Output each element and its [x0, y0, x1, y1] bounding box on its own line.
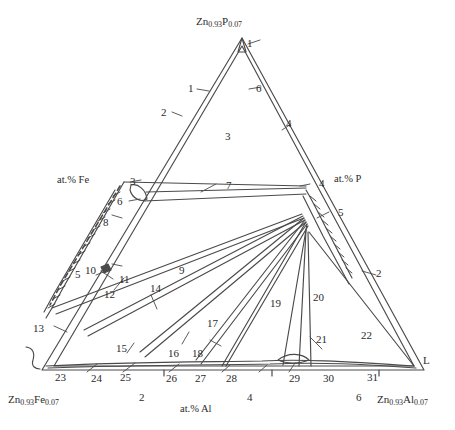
corner-label-bottom-right: Zn0.93Al0.07 [377, 394, 428, 407]
field-label-18: 18 [192, 348, 203, 359]
field-label-3-center: 3 [225, 131, 231, 142]
left-corner-bracket [26, 347, 40, 369]
phase-diagram-canvas [0, 0, 455, 430]
axis-label-al: at.% Al [180, 404, 212, 415]
axis-label-p: at.% P [334, 174, 361, 185]
boundary-21-22 [308, 232, 311, 366]
field-label-3-left: 3 [130, 176, 136, 187]
field-label-17: 17 [207, 318, 218, 329]
bottom-point-label-24: 24 [91, 373, 102, 384]
field-label-15: 15 [116, 343, 127, 354]
corner-label-bottom-left: Zn0.93Fe0.07 [8, 394, 59, 407]
ternary-phase-diagram: Zn0.93P0.07 Zn0.93Fe0.07 Zn0.93Al0.07 at… [0, 0, 455, 430]
axis-tick-4: 4 [247, 392, 253, 403]
field-label-8: 8 [103, 217, 109, 228]
field-label-13: 13 [33, 323, 44, 334]
field-label-4-right: 4 [286, 118, 292, 129]
field-label-22: 22 [361, 330, 372, 341]
tie-line-upper-edge [124, 182, 306, 186]
field-label-2-right: 2 [376, 268, 382, 279]
liquid-phase-label: L [423, 355, 430, 366]
bottom-point-label-26: 26 [166, 373, 177, 384]
bottom-point-label-25: 25 [120, 372, 131, 383]
right-hatch-marks [310, 196, 352, 273]
triangle-outline [42, 38, 424, 370]
field-label-14: 14 [150, 283, 161, 294]
field-label-1-apex: 1 [247, 38, 253, 49]
bottom-eutectic-band [46, 360, 416, 368]
field-label-5-left: 5 [75, 269, 81, 280]
field-label-5-right: 5 [338, 207, 344, 218]
field-label-7: 7 [226, 180, 232, 191]
bottom-point-label-30: 30 [323, 373, 334, 384]
field-label-11: 11 [119, 274, 130, 285]
field-label-20: 20 [313, 292, 324, 303]
field-label-6-top: 6 [256, 83, 262, 94]
field-label-1-left: 1 [188, 83, 194, 94]
field-label-4-vertex: 4 [319, 178, 325, 189]
bottom-point-label-27: 27 [195, 373, 206, 384]
lens-shape-left [130, 185, 147, 201]
field-label-6-left: 6 [117, 196, 123, 207]
boundary-22-L [309, 232, 414, 366]
bottom-point-label-29: 29 [289, 373, 300, 384]
field-label-10: 10 [85, 265, 96, 276]
bottom-point-label-28: 28 [226, 373, 237, 384]
axis-label-fe: at.% Fe [57, 175, 89, 186]
axis-tick-2: 2 [139, 392, 145, 403]
field-label-2-left: 2 [161, 107, 167, 118]
bottom-lens-29 [278, 354, 309, 363]
bottom-point-label-23: 23 [55, 372, 66, 383]
tie-line-7-lower [144, 194, 306, 201]
field-label-16: 16 [168, 348, 179, 359]
bottom-point-label-31: 31 [367, 372, 378, 383]
field-label-19: 19 [270, 298, 281, 309]
corner-label-top: Zn0.93P0.07 [196, 16, 242, 29]
field-label-12: 12 [104, 289, 115, 300]
field-label-21: 21 [316, 334, 327, 345]
axis-tick-6: 6 [356, 392, 362, 403]
field-label-9: 9 [179, 265, 185, 276]
